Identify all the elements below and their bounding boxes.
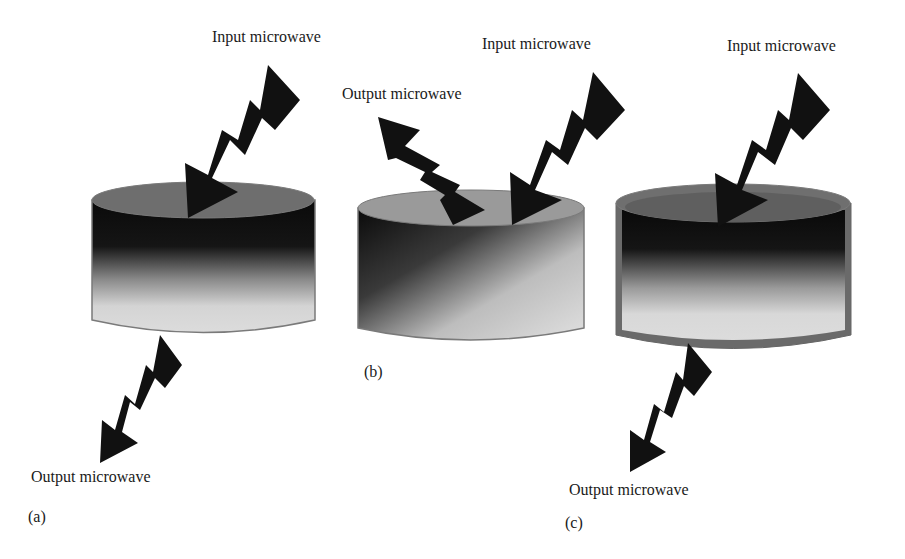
- input-label-b: Input microwave: [482, 35, 591, 53]
- caption-c: (c): [565, 514, 583, 532]
- output-bolt-a: [100, 335, 182, 463]
- output-label-c: Output microwave: [569, 481, 689, 499]
- output-label-a: Output microwave: [31, 468, 151, 486]
- output-bolt-c: [630, 343, 712, 472]
- caption-a: (a): [28, 508, 46, 526]
- input-label-a: Input microwave: [212, 28, 321, 46]
- input-label-c: Input microwave: [727, 37, 836, 55]
- output-label-b: Output microwave: [342, 85, 462, 103]
- caption-b: (b): [364, 363, 383, 381]
